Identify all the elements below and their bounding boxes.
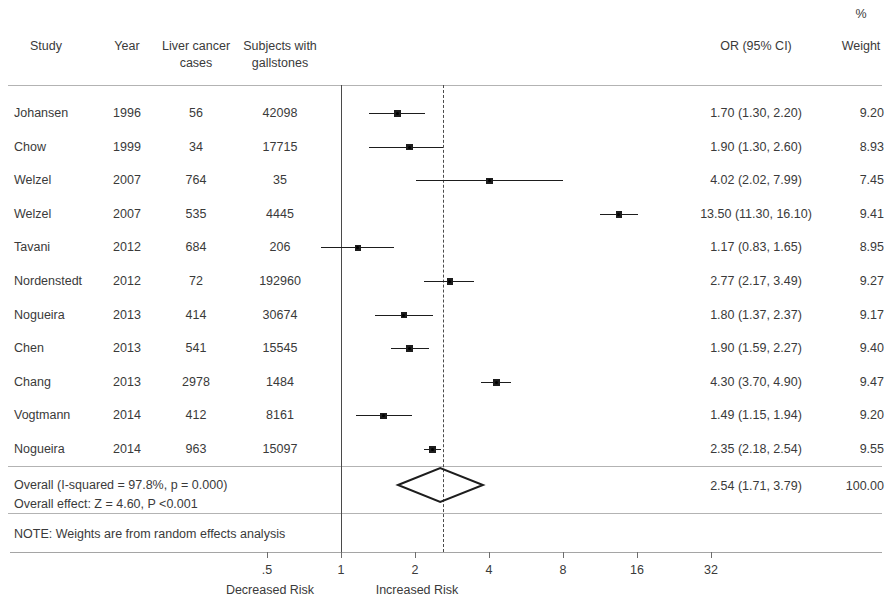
cell-or-ci: 1.80 (1.37, 2.37) — [710, 308, 802, 322]
cell-study-name: Welzel — [14, 173, 51, 187]
cell-subjects-with-gallstones: 35 — [273, 173, 287, 187]
note-separator-rule — [8, 513, 882, 514]
cell-weight: 9.17 — [860, 308, 884, 322]
x-axis-tick — [489, 552, 490, 558]
cell-study-name: Chow — [14, 140, 46, 154]
cell-subjects-with-gallstones: 42098 — [263, 106, 298, 120]
x-axis-tick — [637, 552, 638, 558]
x-axis-tick — [415, 552, 416, 558]
cell-study-name: Nordenstedt — [14, 274, 82, 288]
cell-or-ci: 1.49 (1.15, 1.94) — [710, 408, 802, 422]
cell-year: 2013 — [113, 341, 141, 355]
cell-or-ci: 1.90 (1.30, 2.60) — [710, 140, 802, 154]
cell-or-ci: 4.02 (2.02, 7.99) — [710, 173, 802, 187]
cell-or-ci: 1.17 (0.83, 1.65) — [710, 240, 802, 254]
cell-year: 2013 — [113, 375, 141, 389]
cell-or-ci: 2.77 (2.17, 3.49) — [710, 274, 802, 288]
cell-year: 2012 — [113, 240, 141, 254]
column-header-subjects-line1: Subjects with — [243, 39, 317, 53]
forest-plot: Study Year Liver cancer cases Subjects w… — [0, 0, 890, 604]
cell-study-name: Vogtmann — [14, 408, 70, 422]
cell-year: 2014 — [113, 408, 141, 422]
cell-year: 2013 — [113, 308, 141, 322]
column-header-year: Year — [114, 39, 139, 53]
x-axis-tick — [267, 552, 268, 558]
cell-subjects-with-gallstones: 206 — [270, 240, 291, 254]
cell-weight: 9.20 — [860, 408, 884, 422]
cell-subjects-with-gallstones: 4445 — [266, 207, 294, 221]
x-axis-tick-label: 8 — [560, 563, 567, 577]
cell-year: 2012 — [113, 274, 141, 288]
axis-label-increased-risk: Increased Risk — [376, 583, 459, 597]
cell-year: 1999 — [113, 140, 141, 154]
cell-or-ci: 4.30 (3.70, 4.90) — [710, 375, 802, 389]
cell-weight: 8.95 — [860, 240, 884, 254]
cell-liver-cancer-cases: 684 — [186, 240, 207, 254]
cell-subjects-with-gallstones: 17715 — [263, 140, 298, 154]
cell-or-ci: 13.50 (11.30, 16.10) — [700, 207, 812, 221]
cell-weight: 9.20 — [860, 106, 884, 120]
column-header-cases-line1: Liver cancer — [162, 39, 230, 53]
column-header-or-ci: OR (95% CI) — [720, 39, 792, 53]
pooled-estimate-diamond — [396, 466, 485, 504]
column-header-study: Study — [30, 39, 62, 53]
cell-year: 1996 — [113, 106, 141, 120]
cell-weight: 9.40 — [860, 341, 884, 355]
study-effect-marker-center — [408, 146, 411, 149]
cell-or-ci: 1.70 (1.30, 2.20) — [710, 106, 802, 120]
cell-liver-cancer-cases: 412 — [186, 408, 207, 422]
study-effect-marker-center — [431, 448, 434, 451]
cell-liver-cancer-cases: 72 — [189, 274, 203, 288]
column-header-weight: Weight — [842, 39, 881, 53]
x-axis-line — [10, 552, 882, 553]
cell-weight: 9.27 — [860, 274, 884, 288]
cell-study-name: Johansen — [14, 106, 68, 120]
cell-subjects-with-gallstones: 8161 — [266, 408, 294, 422]
null-effect-line — [341, 85, 342, 552]
x-axis-tick-label: 16 — [630, 563, 644, 577]
x-axis-tick — [341, 552, 342, 558]
cell-or-ci: 1.90 (1.59, 2.27) — [710, 341, 802, 355]
cell-weight: 9.47 — [860, 375, 884, 389]
cell-or-ci: 2.35 (2.18, 2.54) — [710, 442, 802, 456]
x-axis-tick-label: 32 — [704, 563, 718, 577]
cell-subjects-with-gallstones: 192960 — [259, 274, 301, 288]
cell-study-name: Nogueira — [14, 442, 65, 456]
overall-or-ci-value: 2.54 (1.71, 3.79) — [710, 479, 802, 493]
column-header-cases-line2: cases — [180, 56, 213, 70]
cell-year: 2014 — [113, 442, 141, 456]
x-axis-tick-label: .5 — [262, 563, 272, 577]
cell-study-name: Chen — [14, 341, 44, 355]
weights-note-label: NOTE: Weights are from random effects an… — [14, 527, 285, 541]
cell-liver-cancer-cases: 535 — [186, 207, 207, 221]
cell-subjects-with-gallstones: 15097 — [263, 442, 298, 456]
cell-study-name: Chang — [14, 375, 51, 389]
study-effect-marker-center — [402, 314, 405, 317]
header-separator-rule — [8, 85, 882, 86]
cell-weight: 9.41 — [860, 207, 884, 221]
cell-liver-cancer-cases: 2978 — [182, 375, 210, 389]
column-header-weight-percent: % — [855, 7, 866, 21]
cell-subjects-with-gallstones: 1484 — [266, 375, 294, 389]
cell-year: 2007 — [113, 207, 141, 221]
axis-label-decreased-risk: Decreased Risk — [226, 583, 314, 597]
cell-liver-cancer-cases: 764 — [186, 173, 207, 187]
x-axis-tick-label: 1 — [338, 563, 345, 577]
cell-liver-cancer-cases: 56 — [189, 106, 203, 120]
cell-subjects-with-gallstones: 30674 — [263, 308, 298, 322]
overall-weight-value: 100.00 — [846, 479, 884, 493]
cell-study-name: Welzel — [14, 207, 51, 221]
overall-effect-label: Overall effect: Z = 4.60, P <0.001 — [14, 497, 198, 511]
overall-heterogeneity-label: Overall (I-squared = 97.8%, p = 0.000) — [14, 478, 227, 492]
column-header-subjects-line2: gallstones — [252, 56, 308, 70]
cell-liver-cancer-cases: 963 — [186, 442, 207, 456]
cell-study-name: Nogueira — [14, 308, 65, 322]
x-axis-tick-label: 2 — [412, 563, 419, 577]
cell-weight: 9.55 — [860, 442, 884, 456]
cell-year: 2007 — [113, 173, 141, 187]
cell-study-name: Tavani — [14, 240, 50, 254]
x-axis-tick — [563, 552, 564, 558]
cell-liver-cancer-cases: 414 — [186, 308, 207, 322]
x-axis-tick-label: 4 — [486, 563, 493, 577]
cell-liver-cancer-cases: 34 — [189, 140, 203, 154]
